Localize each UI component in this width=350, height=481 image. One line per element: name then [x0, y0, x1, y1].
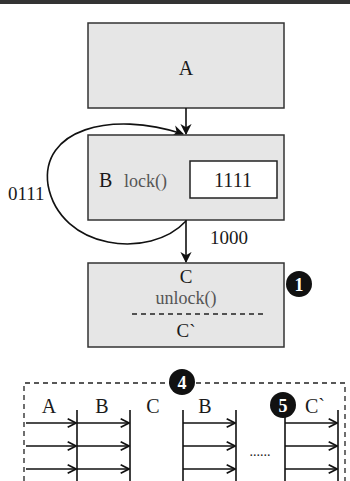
timeline-ellipsis: ......: [250, 444, 271, 459]
timeline-arrows-c-prime: [285, 423, 337, 469]
timeline-arrows-a: [26, 423, 76, 469]
box-c-label: C: [180, 266, 193, 287]
timeline-region: [24, 383, 345, 481]
b-to-c-label: 1000: [210, 227, 248, 248]
svg-text:4: 4: [178, 373, 187, 393]
timeline-col-c: C: [146, 395, 159, 417]
state-box-a: A: [88, 23, 284, 108]
box-b-value: 1111: [214, 169, 252, 191]
diagram-canvas: A 0111 B lock() 1111 1000 C unlock() C` …: [0, 0, 350, 481]
loop-label: 0111: [8, 183, 45, 204]
svg-text:5: 5: [279, 396, 288, 416]
box-b-method: lock(): [124, 171, 167, 192]
timeline-col-c-prime: C`: [305, 395, 325, 417]
badge-4: 4: [169, 369, 195, 395]
box-c-method: unlock(): [156, 288, 217, 309]
timeline-col-a: A: [42, 395, 57, 417]
timeline-col-b2: B: [198, 395, 211, 417]
state-box-c: C unlock() C`: [88, 263, 284, 347]
timeline-col-b: B: [95, 395, 108, 417]
box-c-sublabel: C`: [177, 320, 196, 341]
badge-5: 5: [270, 392, 296, 418]
cropped-header-text: [0, 0, 350, 4]
timeline-arrows-b: [77, 423, 129, 469]
badge-1: 1: [286, 271, 312, 297]
timeline-arrows-b2: [183, 423, 235, 469]
svg-text:1: 1: [295, 275, 304, 295]
box-b-label: B: [99, 169, 112, 191]
state-box-b: B lock() 1111: [88, 135, 284, 220]
box-a-label: A: [179, 57, 194, 79]
